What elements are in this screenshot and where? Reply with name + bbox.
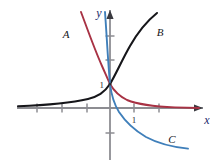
graph-canvas: y x 1 1 A B C xyxy=(0,0,224,167)
x-axis-tick-label-one: 1 xyxy=(132,115,137,125)
y-axis-label: y xyxy=(95,6,102,20)
curve-a-path xyxy=(81,12,199,108)
exponential-functions-figure: y x 1 1 A B C xyxy=(0,0,224,167)
intersection-point xyxy=(108,82,111,85)
y-axis-arrowhead xyxy=(106,10,113,19)
curve-label-a: A xyxy=(62,28,70,40)
curve-label-b: B xyxy=(157,26,164,38)
x-axis-label: x xyxy=(203,113,210,127)
curve-c-path xyxy=(105,12,188,149)
y-axis-tick-label-one: 1 xyxy=(100,80,105,90)
curve-label-c: C xyxy=(168,133,176,145)
